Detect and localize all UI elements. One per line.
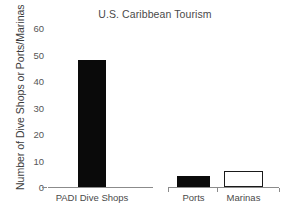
- y-axis-tick-label: 10: [22, 157, 44, 167]
- plot-area: PADI Dive ShopsPortsMarinas: [46, 24, 280, 188]
- y-axis-tick-label: 40: [22, 77, 44, 87]
- y-axis-tick-label: 20: [22, 130, 44, 140]
- chart-title: U.S. Caribbean Tourism: [40, 8, 270, 20]
- x-axis-line-left-group: [48, 187, 153, 188]
- y-axis-tick-label: 30: [22, 104, 44, 114]
- x-axis-tick-label: Marinas: [184, 192, 285, 203]
- bar-marinas[interactable]: [224, 171, 263, 187]
- chart-container: U.S. Caribbean Tourism Number of Dive Sh…: [0, 0, 284, 220]
- y-axis-tick-label: 60: [22, 24, 44, 34]
- bar-ports[interactable]: [177, 176, 210, 187]
- x-axis-tick-mark: [168, 188, 169, 192]
- y-axis-tick-label: 50: [22, 51, 44, 61]
- x-axis-tick-mark: [217, 188, 218, 192]
- y-axis-zero-tick: [42, 187, 47, 188]
- bar-padi-dive-shops[interactable]: [78, 60, 106, 187]
- y-axis-tick-labels: 0102030405060: [20, 0, 44, 200]
- x-axis-line-right-group: [168, 187, 279, 188]
- y-axis-title-container: Number of Dive Shops or Ports/Marinas: [0, 0, 18, 200]
- x-axis-tick-mark: [279, 188, 280, 192]
